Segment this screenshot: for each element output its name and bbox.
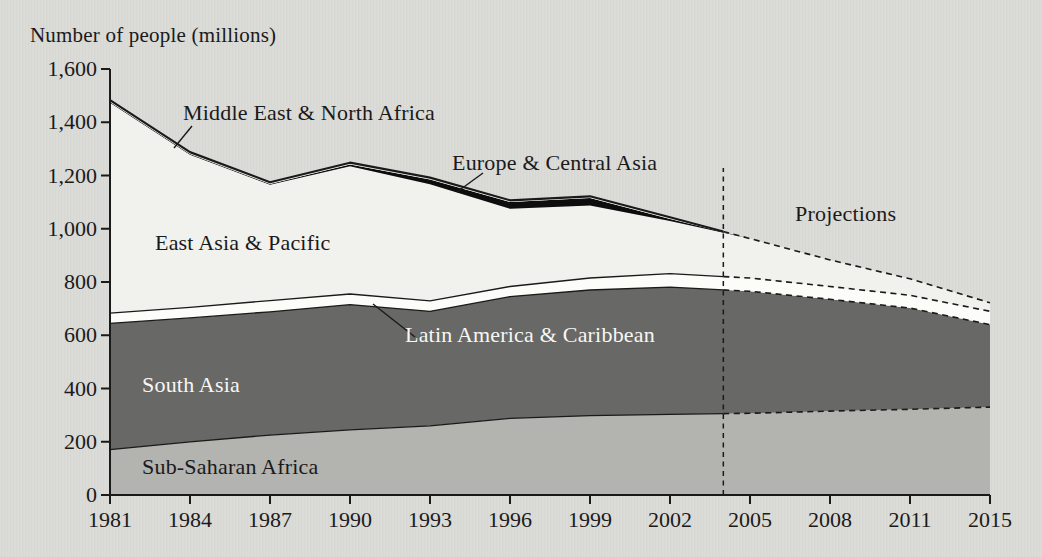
x-tick-label: 1981 xyxy=(88,507,132,532)
x-tick-label: 1987 xyxy=(248,507,292,532)
y-tick-label: 1,000 xyxy=(48,216,98,241)
y-tick-label: 1,400 xyxy=(48,109,98,134)
x-tick-label: 2011 xyxy=(888,507,931,532)
y-tick-label: 0 xyxy=(86,482,97,507)
x-tick-label: 1984 xyxy=(168,507,212,532)
label-leader-line xyxy=(174,126,192,148)
x-tick-label: 2002 xyxy=(648,507,692,532)
poverty-chart-figure: Number of people (millions) 020040060080… xyxy=(0,0,1042,557)
eap-label: East Asia & Pacific xyxy=(155,230,331,255)
x-tick-label: 1993 xyxy=(408,507,452,532)
y-tick-label: 600 xyxy=(64,322,97,347)
x-tick-label: 2015 xyxy=(968,507,1012,532)
y-tick-label: 1,200 xyxy=(48,163,98,188)
x-tick-label: 1990 xyxy=(328,507,372,532)
y-tick-label: 400 xyxy=(64,376,97,401)
x-tick-label: 1999 xyxy=(568,507,612,532)
x-tick-label: 2008 xyxy=(808,507,852,532)
lac-label: Latin America & Caribbean xyxy=(405,322,655,347)
south-asia-label: South Asia xyxy=(142,372,240,397)
projections-label: Projections xyxy=(795,201,896,226)
y-tick-label: 800 xyxy=(64,269,97,294)
ssa-label: Sub-Saharan Africa xyxy=(142,454,319,479)
eca-label: Europe & Central Asia xyxy=(452,150,657,175)
y-tick-label: 1,600 xyxy=(48,56,98,81)
poverty-stacked-area-chart: 02004006008001,0001,2001,4001,6001981198… xyxy=(0,0,1042,557)
y-tick-label: 200 xyxy=(64,429,97,454)
x-tick-label: 1996 xyxy=(488,507,532,532)
mena-label: Middle East & North Africa xyxy=(183,100,435,125)
x-tick-label: 2005 xyxy=(728,507,772,532)
